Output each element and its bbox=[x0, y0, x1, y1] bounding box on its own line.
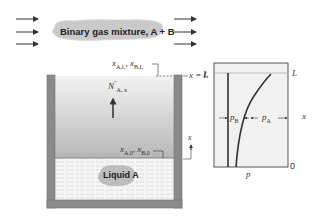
liquid-a-label: Liquid A bbox=[103, 171, 139, 180]
bottom-mole-fraction-label: xA,0, xB,0 bbox=[120, 145, 150, 156]
plot-p-label: p bbox=[246, 170, 251, 179]
gas-mixture-label: Binary gas mixture, A + B bbox=[60, 26, 175, 37]
plot-zero: 0 bbox=[290, 162, 295, 171]
top-mole-fraction-label: xA,L, xB,L bbox=[112, 59, 143, 70]
pB-label: pB bbox=[230, 113, 239, 124]
plot-L-right: L bbox=[292, 69, 297, 78]
partial-pressure-plot bbox=[214, 63, 288, 167]
x-axis-indicator bbox=[183, 146, 191, 159]
flux-label: N''A, x bbox=[108, 80, 127, 93]
top-leader-line bbox=[152, 64, 158, 76]
container bbox=[47, 75, 182, 208]
plot-x-label: x bbox=[302, 112, 306, 121]
x-axis-label: x bbox=[188, 134, 192, 142]
plot-L-left: L bbox=[203, 70, 208, 79]
flow-arrows-right bbox=[174, 19, 196, 44]
pA-label: pA bbox=[262, 113, 271, 124]
flow-arrows-left bbox=[16, 19, 38, 44]
